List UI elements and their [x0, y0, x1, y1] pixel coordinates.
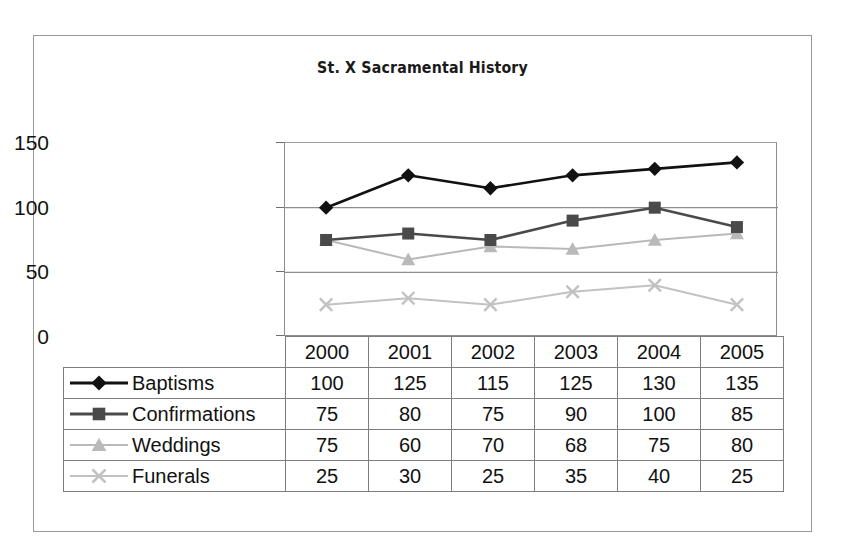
table-cell: 30: [369, 461, 452, 492]
diamond-marker-icon: [68, 372, 130, 394]
table-cell: 80: [701, 430, 784, 461]
table-cell: 90: [535, 399, 618, 430]
y-axis-tick-100: 100: [0, 197, 49, 218]
table-column-header-2000: 2000: [286, 337, 369, 368]
y-axis-tickmark-100: [276, 207, 284, 208]
table-cell: 75: [286, 430, 369, 461]
table-body: Baptisms100125115125130135Confirmations7…: [64, 368, 784, 492]
table-cell: 25: [286, 461, 369, 492]
series-baptisms: [319, 155, 744, 215]
table-column-header-2002: 2002: [452, 337, 535, 368]
table-cell: 115: [452, 368, 535, 399]
series-confirmations: [320, 202, 743, 246]
legend-label: Baptisms: [130, 372, 214, 395]
table-cell: 25: [701, 461, 784, 492]
table-cell: 130: [618, 368, 701, 399]
x-marker-icon: [68, 465, 130, 487]
table-corner-cell: [64, 337, 286, 368]
table-cell: 70: [452, 430, 535, 461]
legend-item-funerals: Funerals: [64, 461, 286, 492]
triangle-marker-icon: [68, 434, 130, 456]
legend-item-baptisms: Baptisms: [64, 368, 286, 399]
table-cell: 68: [535, 430, 618, 461]
legend-label: Funerals: [130, 465, 210, 488]
table-column-header-2001: 2001: [369, 337, 452, 368]
table-column-header-2003: 2003: [535, 337, 618, 368]
chart-screenshot: St. X Sacramental History 150 100 50 0 2…: [0, 0, 841, 559]
table-column-header-2004: 2004: [618, 337, 701, 368]
table-cell: 35: [535, 461, 618, 492]
table-row: Weddings756070687580: [64, 430, 784, 461]
table-row: Baptisms100125115125130135: [64, 368, 784, 399]
table-cell: 80: [369, 399, 452, 430]
table-cell: 40: [618, 461, 701, 492]
table-cell: 135: [701, 368, 784, 399]
table-cell: 60: [369, 430, 452, 461]
legend-label: Confirmations: [130, 403, 255, 426]
table-cell: 125: [535, 368, 618, 399]
table-cell: 100: [618, 399, 701, 430]
table-cell: 75: [286, 399, 369, 430]
series-weddings: [319, 227, 744, 266]
series-funerals: [320, 279, 743, 311]
y-axis-tick-0: 0: [0, 326, 49, 347]
legend-item-confirmations: Confirmations: [64, 399, 286, 430]
legend-item-weddings: Weddings: [64, 430, 286, 461]
chart-outer-frame: St. X Sacramental History 150 100 50 0 2…: [33, 35, 812, 532]
table-cell: 75: [618, 430, 701, 461]
square-marker-icon: [68, 403, 130, 425]
table-cell: 75: [452, 399, 535, 430]
table-header-row: 200020012002200320042005: [64, 337, 784, 368]
data-table: 200020012002200320042005 Baptisms1001251…: [63, 336, 784, 492]
table-row: Funerals253025354025: [64, 461, 784, 492]
table-row: Confirmations7580759010085: [64, 399, 784, 430]
table-column-header-2005: 2005: [701, 337, 784, 368]
table-cell: 100: [286, 368, 369, 399]
table-cell: 125: [369, 368, 452, 399]
table-cell: 85: [701, 399, 784, 430]
y-axis-tick-50: 50: [0, 261, 49, 282]
plot-area: [284, 142, 777, 336]
table-cell: 25: [452, 461, 535, 492]
y-axis-tick-150: 150: [0, 132, 49, 153]
legend-label: Weddings: [130, 434, 221, 457]
plot-svg: [285, 143, 778, 337]
y-axis-tickmark-50: [276, 271, 284, 272]
y-axis-tickmark-150: [276, 142, 284, 143]
chart-title: St. X Sacramental History: [88, 58, 756, 77]
